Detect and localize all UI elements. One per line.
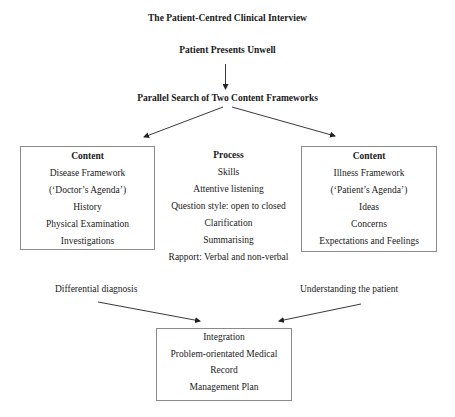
arrow-differential-to-integration: [98, 302, 200, 321]
start-node: Patient Presents Unwell: [0, 45, 455, 55]
differential-diagnosis-label: Differential diagnosis: [55, 284, 137, 294]
parallel-search-node: Parallel Search of Two Content Framework…: [0, 93, 455, 103]
process-heading: Process: [156, 147, 301, 164]
disease-box-item: Physical Examination: [21, 216, 154, 233]
diagram-title: The Patient-Centred Clinical Interview: [0, 13, 455, 23]
arrow-understanding-to-integration: [279, 304, 361, 321]
illness-framework-box: Content Illness Framework (‘Patient’s Ag…: [301, 146, 437, 252]
process-item: Summarising: [156, 232, 301, 249]
disease-box-item: Investigations: [21, 233, 154, 250]
process-item: Clarification: [156, 215, 301, 232]
disease-box-item: History: [21, 199, 154, 216]
illness-box-item: Concerns: [302, 216, 436, 233]
illness-box-item: Illness Framework: [302, 165, 436, 182]
arrow-to-disease-framework: [144, 107, 223, 137]
integration-item: Problem-orientated Medical: [157, 346, 291, 363]
process-item: Skills: [156, 164, 301, 181]
illness-box-item: Ideas: [302, 199, 436, 216]
disease-box-item: Disease Framework: [21, 165, 154, 182]
disease-box-heading: Content: [21, 148, 154, 165]
process-item: Question style: open to closed: [156, 198, 301, 215]
process-column: Process Skills Attentive listening Quest…: [156, 147, 301, 267]
process-item: Rapport: Verbal and non-verbal: [156, 249, 301, 266]
integration-item: Record: [157, 362, 291, 379]
integration-item: Integration: [157, 329, 291, 346]
integration-item: Management Plan: [157, 379, 291, 396]
arrow-to-illness-framework: [232, 107, 335, 136]
integration-box: Integration Problem-orientated Medical R…: [156, 328, 292, 401]
process-item: Attentive listening: [156, 181, 301, 198]
understanding-patient-label: Understanding the patient: [300, 284, 398, 294]
disease-box-item: (‘Doctor’s Agenda’): [21, 182, 154, 199]
illness-box-heading: Content: [302, 148, 436, 165]
illness-box-item: (‘Patient’s Agenda’): [302, 182, 436, 199]
disease-framework-box: Content Disease Framework (‘Doctor’s Age…: [20, 146, 155, 250]
illness-box-item: Expectations and Feelings: [302, 233, 436, 250]
